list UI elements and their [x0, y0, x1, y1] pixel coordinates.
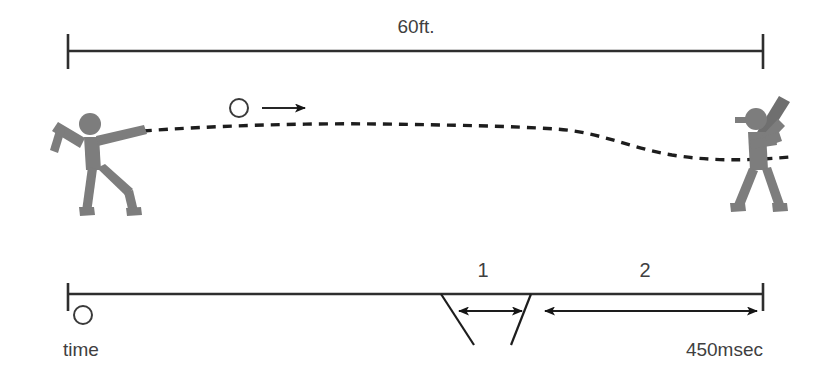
time-ruler: 1 2 time 450msec: [63, 259, 763, 360]
time-start-label: time: [63, 339, 99, 360]
baseball-icon: [230, 99, 248, 117]
pitcher-head: [79, 113, 101, 135]
segment-1-label: 1: [477, 259, 488, 281]
ball-trajectory-path: [143, 124, 790, 160]
time-start-ball-marker: [74, 306, 92, 324]
batter-back-foot: [772, 203, 788, 212]
ball-and-direction: [230, 99, 305, 117]
pitcher-figure: [50, 113, 147, 216]
diagram-canvas: 60ft.: [0, 0, 838, 379]
distance-ruler: 60ft.: [68, 16, 763, 69]
pitcher-right-leg-upper: [97, 164, 133, 196]
pitcher-left-foot: [79, 207, 95, 216]
baseball-reaction-time-diagram: 60ft.: [0, 0, 838, 379]
segment-divider-right: [511, 294, 531, 345]
batter-back-leg: [762, 167, 784, 207]
segment-2-label: 2: [639, 259, 650, 281]
pitcher-left-leg: [82, 167, 97, 213]
segment-divider-left: [441, 294, 474, 345]
pitcher-throwing-arm: [96, 125, 147, 146]
batter-figure: [730, 96, 790, 212]
pitcher-right-foot: [126, 207, 142, 216]
batter-head: [745, 108, 767, 130]
ball-trajectory: [143, 124, 790, 160]
time-end-label: 450msec: [686, 339, 763, 360]
batter-front-foot: [730, 203, 746, 212]
distance-label: 60ft.: [398, 16, 435, 37]
